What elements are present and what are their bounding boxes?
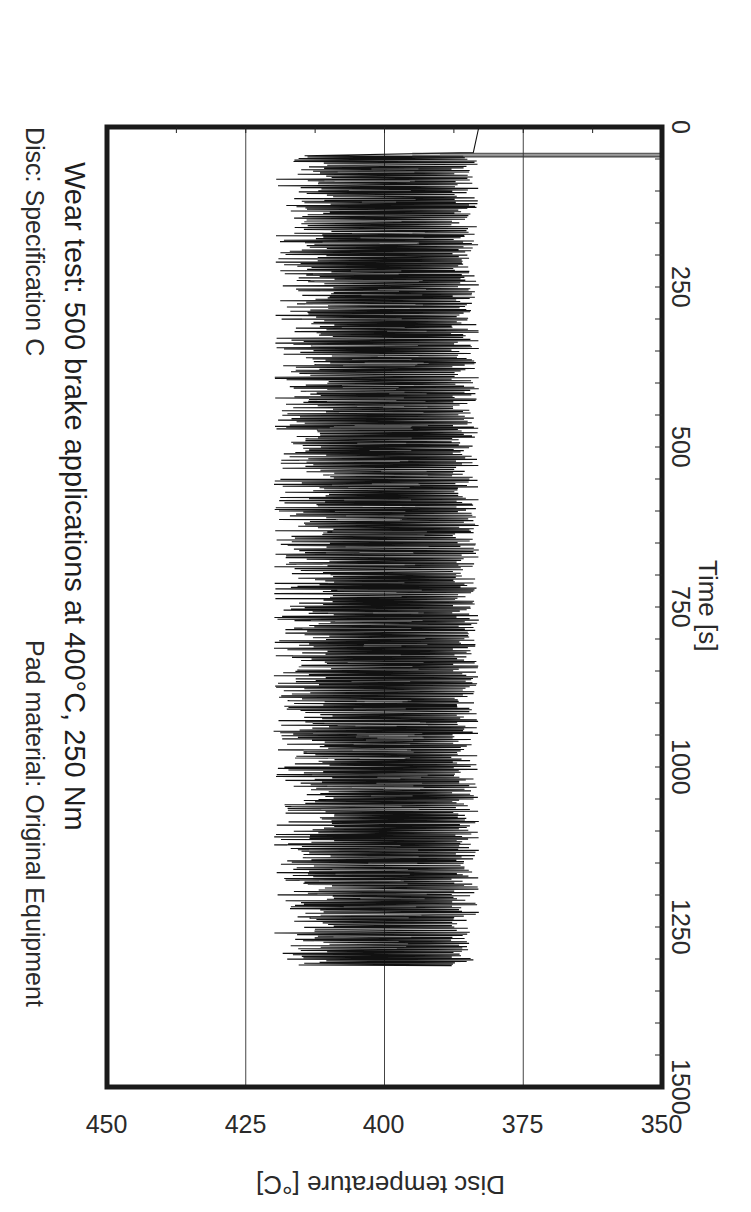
- x-tick-label: 250: [666, 266, 695, 308]
- x-tick-label: 1250: [666, 899, 695, 955]
- y-tick-label: 425: [224, 1110, 266, 1139]
- y-axis-label: Disc temperature [°C]: [256, 1169, 505, 1200]
- x-axis-label: Time [s]: [692, 560, 723, 651]
- y-tick-label: 400: [363, 1110, 405, 1139]
- x-tick-label: 750: [666, 586, 695, 628]
- x-tick-label: 0: [666, 120, 695, 134]
- x-tick-label: 1500: [666, 1059, 695, 1115]
- plot-area: [0, 0, 751, 1212]
- rotated-figure: Disc: Specification C Pad material: Orig…: [0, 0, 751, 1212]
- y-tick-label: 450: [86, 1110, 128, 1139]
- x-tick-label: 500: [666, 426, 695, 468]
- temperature-trace: [274, 127, 479, 966]
- y-tick-label: 375: [502, 1110, 544, 1139]
- x-tick-label: 1000: [666, 739, 695, 795]
- y-tick-label: 350: [641, 1110, 683, 1139]
